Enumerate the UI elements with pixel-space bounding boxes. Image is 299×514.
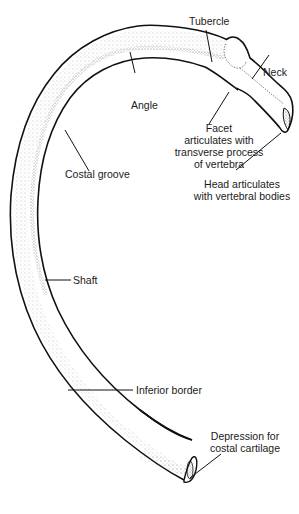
rib-body — [7, 24, 245, 482]
label-facet-line-4: of vertebra — [160, 158, 278, 170]
label-depression-line-1: Depression for — [195, 430, 295, 442]
rib-outer-border — [10, 25, 228, 480]
label-head-line-1: Head articulates — [186, 178, 298, 190]
leader-facet — [209, 92, 229, 124]
label-inferior-border: Inferior border — [136, 384, 202, 396]
rib-posterior-end — [224, 37, 293, 132]
leader-lines — [45, 30, 281, 478]
label-depression: Depression for costal cartilage — [195, 430, 295, 454]
label-facet: Facet articulates with transverse proces… — [160, 122, 278, 170]
label-facet-line-2: articulates with — [160, 134, 278, 146]
label-depression-line-2: costal cartilage — [195, 442, 295, 454]
leader-costal-groove — [65, 130, 89, 171]
label-head-line-2: with vertebral bodies — [186, 190, 298, 202]
leader-angle — [130, 52, 135, 73]
label-head: Head articulates with vertebral bodies — [186, 178, 298, 202]
label-facet-line-1: Facet — [160, 122, 278, 134]
label-neck: Neck — [263, 66, 287, 78]
label-costal-groove: Costal groove — [65, 168, 130, 180]
label-angle: Angle — [131, 99, 158, 111]
label-facet-line-3: transverse process — [160, 146, 278, 158]
label-tubercle: Tubercle — [189, 15, 229, 27]
label-shaft: Shaft — [73, 274, 98, 286]
